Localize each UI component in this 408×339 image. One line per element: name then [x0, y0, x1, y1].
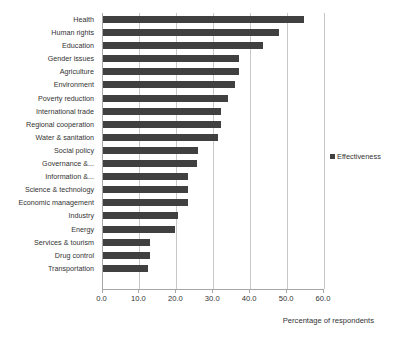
y-axis-label: Energy: [0, 223, 98, 236]
bar: [103, 55, 240, 62]
x-axis-tick-label: 30.0: [205, 294, 220, 303]
y-axis-category-labels: HealthHuman rightsEducationGender issues…: [0, 13, 98, 275]
bar-row: [103, 209, 325, 222]
y-axis-label: Transportation: [0, 262, 98, 275]
x-axis-tick: [102, 289, 103, 293]
bar: [103, 81, 236, 88]
x-axis-tick: [138, 289, 139, 293]
bar: [103, 147, 199, 154]
x-axis-tick: [286, 289, 287, 293]
bar-row: [103, 223, 325, 236]
x-axis-tick-labels: 0.010.020.030.040.050.060.0: [0, 294, 408, 306]
bar-row: [103, 131, 325, 144]
legend-swatch-effectiveness: [330, 154, 335, 159]
bar: [103, 160, 197, 167]
bar-row: [103, 39, 325, 52]
x-axis-tick: [175, 289, 176, 293]
bar-row: [103, 26, 325, 39]
y-axis-label: Information &...: [0, 170, 98, 183]
bar-row: [103, 65, 325, 78]
bar: [103, 42, 264, 49]
bar-row: [103, 92, 325, 105]
x-axis-tick-label: 50.0: [279, 294, 294, 303]
bar-row: [103, 262, 325, 275]
bar-row: [103, 183, 325, 196]
bar-row: [103, 157, 325, 170]
legend-label-effectiveness: Effectiveness: [337, 152, 381, 161]
x-axis-tick-label: 20.0: [168, 294, 183, 303]
y-axis-label: Water & sanitation: [0, 131, 98, 144]
bar: [103, 173, 189, 180]
y-axis-label: Human rights: [0, 26, 98, 39]
x-axis-tick-label: 10.0: [131, 294, 146, 303]
bar-row: [103, 170, 325, 183]
bar-row: [103, 249, 325, 262]
bar: [103, 121, 222, 128]
x-axis-tick-label: 0.0: [96, 294, 107, 303]
x-axis-tick: [212, 289, 213, 293]
y-axis-label: Drug control: [0, 249, 98, 262]
bar-row: [103, 118, 325, 131]
plot-area: [102, 13, 325, 290]
bar-row: [103, 236, 325, 249]
bar: [103, 134, 218, 141]
gridline: [324, 13, 325, 289]
bar-row: [103, 105, 325, 118]
y-axis-label: Services & tourism: [0, 236, 98, 249]
bar-row: [103, 52, 325, 65]
y-axis-label: Governance &...: [0, 157, 98, 170]
y-axis-label: Poverty reduction: [0, 92, 98, 105]
chart-legend: Effectiveness: [330, 152, 381, 161]
bar: [103, 212, 179, 219]
x-axis-tick: [249, 289, 250, 293]
y-axis-label: Health: [0, 13, 98, 26]
x-axis-tick: [323, 289, 324, 293]
x-axis-title: Percentage of respondents: [0, 316, 374, 325]
y-axis-label: Industry: [0, 209, 98, 222]
bar: [103, 29, 279, 36]
y-axis-label: Agriculture: [0, 65, 98, 78]
bar-row: [103, 13, 325, 26]
bar: [103, 68, 240, 75]
bar: [103, 199, 189, 206]
bar: [103, 95, 229, 102]
bar: [103, 239, 150, 246]
y-axis-label: Environment: [0, 78, 98, 91]
x-axis-tick-label: 40.0: [242, 294, 257, 303]
y-axis-label: Gender issues: [0, 52, 98, 65]
bar-row: [103, 196, 325, 209]
y-axis-label: Science & technology: [0, 183, 98, 196]
y-axis-label: Education: [0, 39, 98, 52]
bar-chart: HealthHuman rightsEducationGender issues…: [0, 0, 408, 339]
y-axis-label: Regional cooperation: [0, 118, 98, 131]
x-axis-tick-label: 60.0: [316, 294, 331, 303]
bar: [103, 252, 150, 259]
bar: [103, 186, 189, 193]
bar-row: [103, 78, 325, 91]
y-axis-label: Economic management: [0, 196, 98, 209]
bar: [103, 108, 222, 115]
bar: [103, 265, 148, 272]
bar: [103, 226, 176, 233]
bar-row: [103, 144, 325, 157]
y-axis-label: Social policy: [0, 144, 98, 157]
y-axis-label: International trade: [0, 105, 98, 118]
bar: [103, 16, 304, 23]
